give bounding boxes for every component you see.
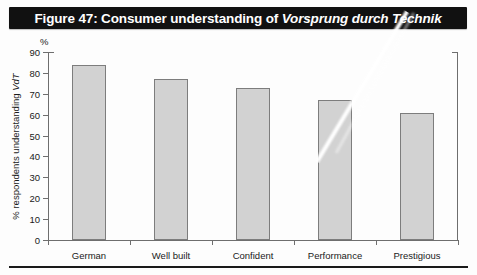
right-axis-line — [457, 52, 458, 240]
y-tick — [43, 136, 48, 137]
y-tick — [43, 177, 48, 178]
y-tick-label: 80 — [29, 67, 40, 78]
figure-container: Figure 47: Consumer understanding of Vor… — [0, 0, 477, 275]
figure-title: Figure 47: Consumer understanding of Vor… — [34, 11, 441, 26]
figure-title-bar: Figure 47: Consumer understanding of Vor… — [9, 7, 467, 29]
y-tick-label: 90 — [29, 47, 40, 58]
y-tick — [43, 73, 48, 74]
x-axis-label: Confident — [233, 250, 274, 261]
x-axis-label: Performance — [308, 250, 362, 261]
bar — [72, 65, 106, 240]
x-tick — [48, 240, 49, 245]
figure-bottom-rule — [9, 266, 468, 268]
x-axis-label: German — [72, 250, 106, 261]
x-axis-label: Well built — [152, 250, 190, 261]
bar — [400, 113, 434, 240]
figure-title-prefix: Figure 47: Consumer understanding of — [34, 11, 281, 26]
y-tick-label: 70 — [29, 88, 40, 99]
right-axis-top-cap — [452, 52, 457, 53]
plot-area: 0102030405060708090 GermanWell builtConf… — [48, 52, 458, 240]
y-axis-title-prefix: % respondents understanding — [10, 90, 21, 219]
y-tick-label: 40 — [29, 151, 40, 162]
x-axis-line — [48, 240, 458, 241]
x-tick — [212, 240, 213, 245]
bar — [154, 79, 188, 240]
x-tick — [458, 240, 459, 245]
y-axis-title: % respondents understanding VdT — [8, 52, 22, 240]
y-tick-label: 50 — [29, 130, 40, 141]
y-tick — [43, 52, 48, 53]
y-tick-label: 10 — [29, 214, 40, 225]
y-tick — [43, 198, 48, 199]
y-axis-title-italic: VdT — [10, 73, 21, 90]
bar — [318, 100, 352, 240]
y-tick — [43, 94, 48, 95]
figure-title-italic: Vorsprung durch Technik — [282, 11, 442, 26]
y-tick — [43, 115, 48, 116]
y-tick-label: 30 — [29, 172, 40, 183]
y-tick-label: 0 — [35, 235, 40, 246]
y-axis-top-cap — [49, 52, 54, 53]
y-tick — [43, 156, 48, 157]
x-tick — [130, 240, 131, 245]
x-tick — [294, 240, 295, 245]
x-tick — [376, 240, 377, 245]
bar — [236, 88, 270, 240]
y-tick-label: 60 — [29, 109, 40, 120]
percent-symbol: % — [40, 36, 48, 47]
y-tick-label: 20 — [29, 193, 40, 204]
y-tick — [43, 219, 48, 220]
y-axis-line — [48, 52, 49, 240]
x-axis-label: Prestigious — [394, 250, 441, 261]
